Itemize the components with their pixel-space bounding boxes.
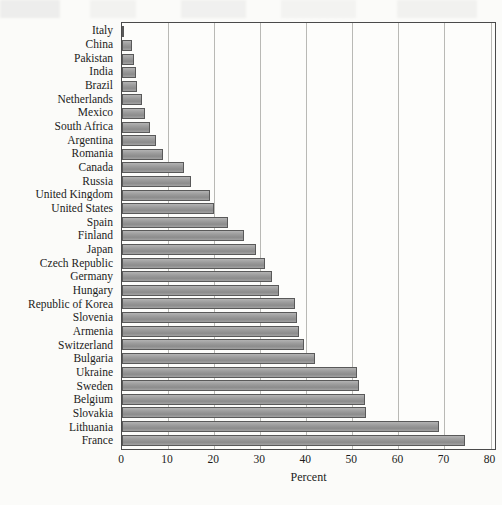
x-axis-tick-labels: 01020304050607080	[121, 452, 496, 468]
y-axis-label-mexico: Mexico	[0, 107, 116, 118]
y-axis-label-south-africa: South Africa	[0, 121, 116, 132]
y-axis-label-slovakia: Slovakia	[0, 408, 116, 419]
bar-romania[interactable]	[122, 149, 163, 160]
bar-row	[122, 176, 495, 187]
bar-pakistan[interactable]	[122, 54, 134, 65]
bar-row	[122, 162, 495, 173]
y-axis-label-brazil: Brazil	[0, 80, 116, 91]
bar-row	[122, 271, 495, 282]
y-axis-label-italy: Italy	[0, 25, 116, 36]
bar-row	[122, 108, 495, 119]
bar-row	[122, 258, 495, 269]
bar-japan[interactable]	[122, 244, 256, 255]
bar-switzerland[interactable]	[122, 339, 304, 350]
bar-italy[interactable]	[122, 26, 124, 37]
y-axis-label-argentina: Argentina	[0, 135, 116, 146]
y-axis-label-canada: Canada	[0, 162, 116, 173]
bar-ukraine[interactable]	[122, 367, 357, 378]
bars-container	[122, 23, 495, 449]
bar-row	[122, 67, 495, 78]
y-axis-label-switzerland: Switzerland	[0, 340, 116, 351]
bar-row	[122, 81, 495, 92]
y-axis-label-france: France	[0, 435, 116, 446]
y-axis-label-china: China	[0, 39, 116, 50]
x-tick-50: 50	[346, 452, 358, 466]
bar-row	[122, 326, 495, 337]
bar-row	[122, 217, 495, 228]
bar-row	[122, 94, 495, 105]
bar-canada[interactable]	[122, 162, 184, 173]
y-axis-label-slovenia: Slovenia	[0, 312, 116, 323]
bar-mexico[interactable]	[122, 108, 145, 119]
y-axis-label-republic-of-korea: Republic of Korea	[0, 299, 116, 310]
bar-sweden[interactable]	[122, 380, 359, 391]
bar-row	[122, 421, 495, 432]
y-axis-label-india: India	[0, 66, 116, 77]
y-axis-label-united-kingdom: United Kingdom	[0, 189, 116, 200]
bar-united-kingdom[interactable]	[122, 190, 210, 201]
bar-row	[122, 312, 495, 323]
x-tick-70: 70	[438, 452, 450, 466]
x-tick-80: 80	[484, 452, 496, 466]
bar-row	[122, 122, 495, 133]
bar-finland[interactable]	[122, 230, 244, 241]
bar-armenia[interactable]	[122, 326, 299, 337]
bar-row	[122, 298, 495, 309]
x-tick-10: 10	[161, 452, 173, 466]
bar-row	[122, 353, 495, 364]
y-axis-label-finland: Finland	[0, 230, 116, 241]
y-axis-category-labels: ItalyChinaPakistanIndiaBrazilNetherlands…	[0, 22, 116, 450]
x-tick-60: 60	[392, 452, 404, 466]
y-axis-label-belgium: Belgium	[0, 394, 116, 405]
bar-row	[122, 230, 495, 241]
bar-argentina[interactable]	[122, 135, 156, 146]
bar-slovakia[interactable]	[122, 407, 366, 418]
bar-row	[122, 26, 495, 37]
bar-row	[122, 40, 495, 51]
x-tick-40: 40	[300, 452, 312, 466]
bar-russia[interactable]	[122, 176, 191, 187]
y-axis-label-bulgaria: Bulgaria	[0, 353, 116, 364]
y-axis-label-ukraine: Ukraine	[0, 367, 116, 378]
bar-india[interactable]	[122, 67, 136, 78]
bar-belgium[interactable]	[122, 394, 365, 405]
y-axis-label-germany: Germany	[0, 271, 116, 282]
bar-republic-of-korea[interactable]	[122, 298, 295, 309]
plot-area	[121, 22, 496, 450]
bar-row	[122, 54, 495, 65]
bar-row	[122, 367, 495, 378]
bar-lithuania[interactable]	[122, 421, 439, 432]
y-axis-label-czech-republic: Czech Republic	[0, 258, 116, 269]
y-axis-label-lithuania: Lithuania	[0, 422, 116, 433]
bar-row	[122, 135, 495, 146]
x-tick-0: 0	[118, 452, 124, 466]
bar-netherlands[interactable]	[122, 94, 142, 105]
bar-united-states[interactable]	[122, 203, 214, 214]
y-axis-label-spain: Spain	[0, 217, 116, 228]
y-axis-label-romania: Romania	[0, 148, 116, 159]
bar-france[interactable]	[122, 435, 465, 446]
bar-row	[122, 339, 495, 350]
bar-bulgaria[interactable]	[122, 353, 315, 364]
bar-row	[122, 149, 495, 160]
bar-hungary[interactable]	[122, 285, 279, 296]
bar-brazil[interactable]	[122, 81, 137, 92]
x-axis-title: Percent	[121, 470, 496, 485]
bar-spain[interactable]	[122, 217, 228, 228]
bar-germany[interactable]	[122, 271, 272, 282]
bar-row	[122, 435, 495, 446]
bar-row	[122, 394, 495, 405]
bar-row	[122, 285, 495, 296]
x-tick-20: 20	[207, 452, 219, 466]
bar-slovenia[interactable]	[122, 312, 297, 323]
y-axis-label-russia: Russia	[0, 176, 116, 187]
bar-chart: ItalyChinaPakistanIndiaBrazilNetherlands…	[0, 0, 502, 505]
x-tick-30: 30	[253, 452, 265, 466]
y-axis-label-netherlands: Netherlands	[0, 94, 116, 105]
y-axis-label-united-states: United States	[0, 203, 116, 214]
bar-south-africa[interactable]	[122, 122, 150, 133]
bar-row	[122, 407, 495, 418]
bar-china[interactable]	[122, 40, 132, 51]
bar-czech-republic[interactable]	[122, 258, 265, 269]
bar-row	[122, 203, 495, 214]
